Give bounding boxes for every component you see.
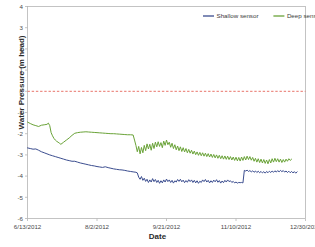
x-tick-label: 11/10/2012 [221,223,252,230]
y-tick-label: -6 [17,215,23,222]
y-tick-label: -1 [17,109,23,116]
y-tick-label: -3 [17,151,23,158]
data-series-group [28,122,298,183]
y-tick-label: -4 [17,172,23,179]
y-axis-ticks: 43210-1-2-3-4-5-6 [17,3,27,222]
x-tick-label: 9/21/2012 [153,223,181,230]
series-line [28,148,298,183]
x-tick-label: 8/2/2012 [85,223,110,230]
x-tick-label: 6/13/2012 [14,223,42,230]
plot-frame [28,7,306,219]
legend-label: Shallow sensor [217,12,259,19]
y-tick-label: 0 [20,88,24,95]
y-tick-label: 3 [20,24,24,31]
y-tick-label: -5 [17,194,23,201]
x-tick-label: 12/30/2012 [290,223,315,230]
x-axis-ticks: 6/13/20128/2/20129/21/201211/10/201212/3… [14,219,315,231]
legend-label: Deep sensor [287,12,315,19]
series-line [28,122,292,164]
y-tick-label: 2 [20,45,24,52]
plot-canvas: 43210-1-2-3-4-5-6 6/13/20128/2/20129/21/… [0,0,315,247]
y-tick-label: 1 [20,66,24,73]
chart-figure: Water Pressure (m head) Date 43210-1-2-3… [0,0,315,247]
chart-legend: Shallow sensorDeep sensor [203,12,315,19]
y-tick-label: -2 [17,130,23,137]
y-tick-label: 4 [20,3,24,10]
